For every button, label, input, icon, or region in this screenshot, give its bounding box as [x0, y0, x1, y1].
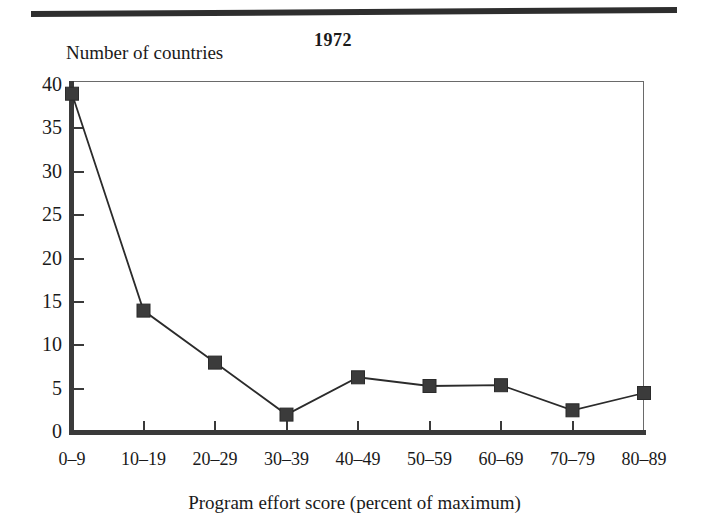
- data-point-marker: [495, 379, 508, 392]
- x-axis-title: Program effort score (percent of maximum…: [0, 492, 709, 514]
- data-point-marker: [280, 408, 293, 421]
- data-point-marker: [66, 87, 79, 100]
- data-series-layer: [0, 0, 709, 531]
- data-point-marker: [209, 356, 222, 369]
- data-point-marker: [566, 404, 579, 417]
- series-markers: [66, 87, 651, 421]
- data-point-marker: [137, 304, 150, 317]
- data-point-marker: [423, 380, 436, 393]
- data-point-marker: [638, 387, 651, 400]
- data-point-marker: [352, 371, 365, 384]
- figure-1972-program-effort: 1972 Number of countries 051015202530354…: [0, 0, 709, 531]
- series-line: [72, 94, 644, 415]
